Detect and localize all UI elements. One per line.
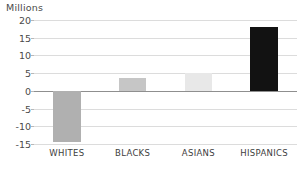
y-axis-tick-label: 10 (19, 50, 31, 61)
x-axis-labels: WHITESBLACKSASIANSHISPANICS (34, 148, 297, 162)
y-axis-tick-mark (31, 109, 34, 110)
y-axis-tick-mark (31, 20, 34, 21)
y-axis-tick-label: -5 (22, 103, 31, 114)
y-axis-tick-mark (31, 73, 34, 74)
gridline (34, 20, 297, 21)
bar-asians (185, 73, 213, 91)
y-axis-tick-label: -15 (15, 139, 31, 150)
plot-area: 20151050-5-10-15 (34, 20, 297, 144)
y-axis-units-label: Millions (6, 2, 43, 13)
y-axis-tick-mark (31, 55, 34, 56)
y-axis-tick-mark (31, 91, 34, 92)
x-axis-label-whites: WHITES (49, 148, 84, 158)
bar-whites (53, 91, 81, 142)
y-axis-tick-label: -10 (15, 121, 31, 132)
gridline (34, 144, 297, 145)
bar-chart: Millions 20151050-5-10-15 WHITESBLACKSAS… (0, 0, 297, 174)
y-axis-tick-mark (31, 126, 34, 127)
x-axis-label-blacks: BLACKS (115, 148, 150, 158)
y-axis-tick-mark (31, 38, 34, 39)
x-axis-label-asians: ASIANS (182, 148, 215, 158)
x-axis-label-hispanics: HISPANICS (240, 148, 288, 158)
bar-hispanics (250, 27, 278, 91)
bar-blacks (119, 78, 147, 90)
y-axis-tick-label: 20 (19, 15, 31, 26)
y-axis-tick-label: 15 (19, 32, 31, 43)
bottom-caption (0, 168, 297, 174)
y-axis-tick-mark (31, 144, 34, 145)
